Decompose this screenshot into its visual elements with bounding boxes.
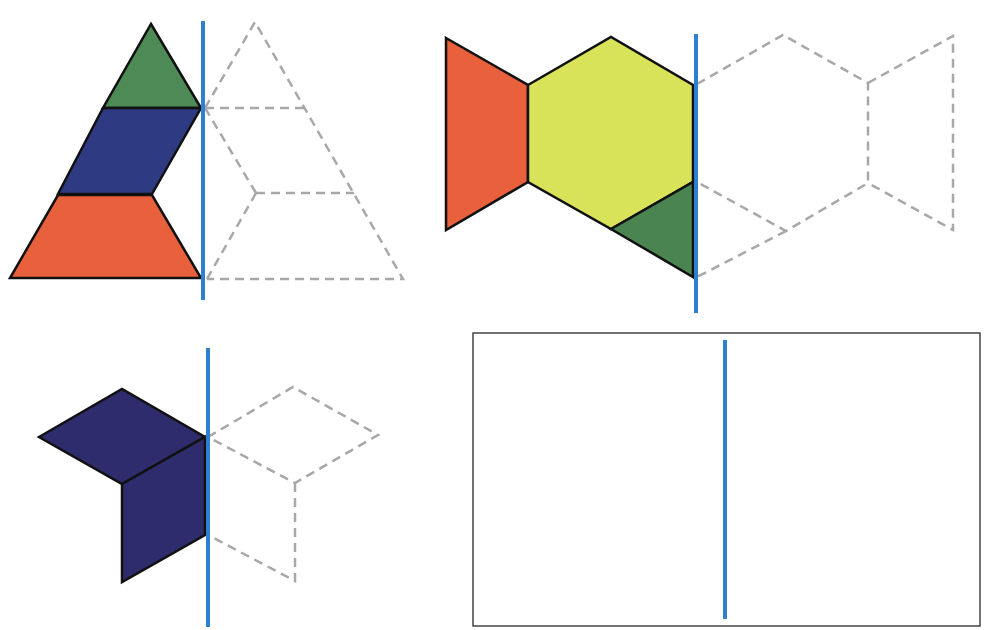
orange-trapezoid-piece[interactable] [10,195,201,278]
bowtie-reflection-outline [697,35,953,277]
cube-reflection-outline [208,387,378,581]
blue-rhombus-piece[interactable] [58,108,201,194]
triangle-reflection-outline [205,22,403,279]
triangle-puzzle [10,21,403,300]
symmetry-worksheet [0,0,985,630]
bowtie-puzzle [446,34,953,313]
orange-trapezoid-piece[interactable] [446,38,528,230]
green-triangle-piece[interactable] [103,24,201,108]
cube-puzzle [39,348,378,627]
empty-puzzle [473,333,980,626]
